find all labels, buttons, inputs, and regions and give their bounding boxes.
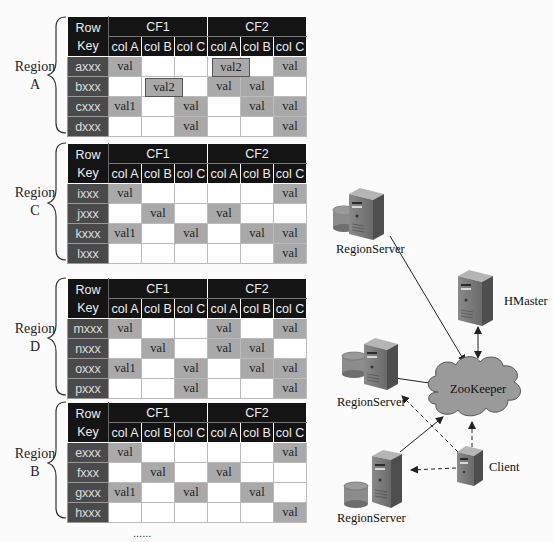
row-key-header-line1: Row <box>68 19 108 37</box>
cell <box>109 379 142 399</box>
table-row: axxxvalval <box>68 57 307 77</box>
cell <box>142 97 175 117</box>
cell <box>109 244 142 264</box>
row-key: oxxx <box>68 359 109 379</box>
column-header: col A <box>208 423 241 443</box>
region-a-table: RowKeyCF1CF2col Acol Bcol Ccol Acol Bcol… <box>67 16 307 137</box>
cell <box>109 117 142 137</box>
cell <box>175 443 208 463</box>
cell: val1 <box>109 483 142 503</box>
cell: val <box>175 483 208 503</box>
column-header: col B <box>241 423 274 443</box>
cell <box>109 77 142 97</box>
cell <box>142 379 175 399</box>
cell <box>208 97 241 117</box>
cell <box>175 244 208 264</box>
row-key: hxxx <box>68 503 109 523</box>
table-row: cxxxval1valvalval <box>68 97 307 117</box>
cell: val <box>274 97 307 117</box>
regionserver-3-label: RegionServer <box>337 511 406 526</box>
row-key: fxxx <box>68 463 109 483</box>
cell <box>241 443 274 463</box>
cell <box>241 244 274 264</box>
cf2-header: CF2 <box>208 17 307 37</box>
row-key: cxxx <box>68 97 109 117</box>
cell: val <box>274 224 307 244</box>
column-header: col A <box>109 164 142 184</box>
table-row: mxxxvalvalval <box>68 319 307 339</box>
column-header: col C <box>274 423 307 443</box>
cell <box>109 503 142 523</box>
cell: val <box>142 463 175 483</box>
cell: val <box>274 443 307 463</box>
cell: val <box>175 359 208 379</box>
cell <box>142 319 175 339</box>
cell <box>142 503 175 523</box>
column-header: col B <box>241 37 274 57</box>
column-header: col A <box>109 37 142 57</box>
cell: val <box>175 224 208 244</box>
cell: val <box>142 339 175 359</box>
cell: val <box>175 97 208 117</box>
client-computer-icon <box>457 446 483 486</box>
cell <box>274 204 307 224</box>
row-key-header-line1: Row <box>68 281 108 299</box>
cell: val <box>241 339 274 359</box>
cell: val <box>274 379 307 399</box>
regionserver-2-icon <box>342 338 398 390</box>
column-header: col B <box>241 164 274 184</box>
row-key: mxxx <box>68 319 109 339</box>
table-row: jxxxvalval <box>68 204 307 224</box>
row-key: axxx <box>68 57 109 77</box>
brace-region-c <box>48 143 66 260</box>
row-key: gxxx <box>68 483 109 503</box>
row-key: kxxx <box>68 224 109 244</box>
cell: val <box>109 184 142 204</box>
table-row: kxxxval1valvalval <box>68 224 307 244</box>
cell: val <box>208 204 241 224</box>
client-label: Client <box>489 460 520 475</box>
cell <box>175 319 208 339</box>
header-row-1: RowKeyCF1CF2 <box>68 17 307 37</box>
cell: val <box>241 483 274 503</box>
row-key: bxxx <box>68 77 109 97</box>
cell: val <box>241 97 274 117</box>
cell <box>142 244 175 264</box>
cell <box>241 204 274 224</box>
cell: val <box>241 224 274 244</box>
column-header: col A <box>208 37 241 57</box>
cell <box>241 184 274 204</box>
row-key: pxxx <box>68 379 109 399</box>
cell <box>208 443 241 463</box>
cell: val <box>241 359 274 379</box>
table-row: hxxxval <box>68 503 307 523</box>
cell <box>241 319 274 339</box>
cell <box>142 117 175 137</box>
table-row: gxxxval1valval <box>68 483 307 503</box>
header-row-1: RowKeyCF1CF2 <box>68 403 307 423</box>
cell <box>208 483 241 503</box>
cell <box>208 503 241 523</box>
cell <box>175 463 208 483</box>
cell <box>274 483 307 503</box>
cell <box>142 443 175 463</box>
cell <box>208 359 241 379</box>
cf1-header: CF1 <box>109 17 208 37</box>
cell <box>175 339 208 359</box>
row-key-header-line1: Row <box>68 405 108 423</box>
cell: val <box>208 339 241 359</box>
column-header: col C <box>274 164 307 184</box>
row-key: lxxx <box>68 244 109 264</box>
regionserver-2-label: RegionServer <box>337 395 406 410</box>
val2-overlay-cf2-colA: val2 <box>212 58 250 77</box>
cell <box>142 224 175 244</box>
val2-overlay-cf1-colB: val2 <box>145 78 183 97</box>
cell: val1 <box>109 224 142 244</box>
row-key-header-line2: Key <box>68 37 108 55</box>
region-b-table: RowKeyCF1CF2col Acol Bcol Ccol Acol Bcol… <box>67 402 307 523</box>
region-c-table: RowKeyCF1CF2col Acol Bcol Ccol Acol Bcol… <box>67 143 307 264</box>
column-header: col A <box>208 299 241 319</box>
table-row: ixxxvalval <box>68 184 307 204</box>
cell <box>109 463 142 483</box>
brace-region-b <box>48 402 66 518</box>
